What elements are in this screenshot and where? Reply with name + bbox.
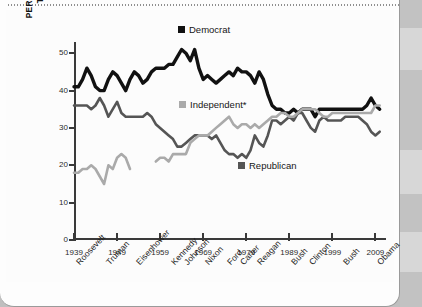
screenshot-root: PERCENTAGE IDENTIFYING THEMSELVES AS . .… — [0, 0, 422, 307]
legend-item-democrat: Democrat — [178, 24, 230, 35]
legend-item-independent: Independent* — [179, 99, 247, 110]
legend-item-republican: Republican — [238, 160, 297, 171]
gutter-tab-2 — [399, 150, 422, 194]
y-axis-title: PERCENTAGE IDENTIFYING THEMSELVES AS . .… — [24, 0, 46, 48]
president-label: Bush — [341, 246, 362, 267]
document-page: PERCENTAGE IDENTIFYING THEMSELVES AS . .… — [0, 0, 400, 307]
y-tick-label: 30 — [42, 123, 68, 132]
plot-area: 01020304050 1939194919591969197919891999… — [74, 42, 384, 240]
legend-label-independent: Independent* — [190, 99, 247, 110]
legend-label-republican: Republican — [249, 160, 297, 171]
series-lines — [74, 42, 386, 240]
y-tick-label: 0 — [42, 235, 68, 244]
figure-area: PERCENTAGE IDENTIFYING THEMSELVES AS . .… — [6, 10, 394, 282]
y-axis-title-line2: THEMSELVES AS . . . — [35, 0, 46, 48]
y-tick-label: 40 — [42, 86, 68, 95]
y-tick-label: 50 — [42, 48, 68, 57]
gutter-tab-1 — [399, 28, 422, 70]
top-dotted-rule — [8, 4, 400, 6]
legend-swatch-republican — [238, 162, 245, 169]
y-tick-label: 10 — [42, 198, 68, 207]
gutter-tab-3 — [399, 232, 422, 272]
legend-swatch-independent — [179, 101, 186, 108]
legend-swatch-democrat — [178, 26, 185, 33]
legend-label-democrat: Democrat — [189, 24, 230, 35]
y-tick-label: 20 — [42, 160, 68, 169]
y-axis-title-line1: PERCENTAGE IDENTIFYING — [24, 0, 35, 48]
page-gutter — [400, 0, 422, 307]
series-line-independent — [74, 154, 130, 184]
president-label: Reagan — [255, 238, 283, 267]
